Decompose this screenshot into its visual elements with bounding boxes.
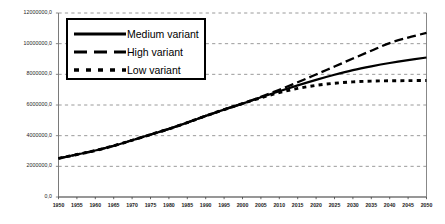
y-tick-label: 10000000,0 <box>0 41 52 46</box>
legend-label-1: High variant <box>127 47 183 58</box>
y-tick-label: 4000000,0 <box>0 133 52 138</box>
y-tick-label: 6000000,0 <box>0 102 52 107</box>
legend-item-2: Low variant <box>68 60 204 80</box>
chart-container: 0,02000000,04000000,06000000,08000000,01… <box>0 0 445 224</box>
chart-legend: Medium variantHigh variantLow variant <box>66 18 206 80</box>
legend-swatch-dashed-short-icon <box>73 63 127 77</box>
legend-item-0: Medium variant <box>68 24 204 44</box>
y-tick-label: 2000000,0 <box>0 163 52 168</box>
legend-label-2: Low variant <box>127 65 181 76</box>
legend-swatch-dashed-long-icon <box>73 45 127 59</box>
xticks-group <box>59 197 427 199</box>
legend-swatch-solid-icon <box>73 27 127 41</box>
y-tick-label: 12000000,0 <box>0 10 52 15</box>
y-tick-label: 0,0 <box>0 194 52 199</box>
x-tick-label: 2050 <box>415 203 439 208</box>
legend-item-1: High variant <box>68 42 204 62</box>
legend-label-0: Medium variant <box>127 29 199 40</box>
y-tick-label: 8000000,0 <box>0 71 52 76</box>
